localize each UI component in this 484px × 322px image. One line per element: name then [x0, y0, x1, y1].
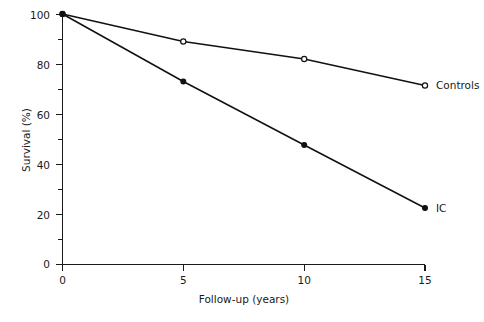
y-tick-label-0: 0: [43, 258, 50, 270]
x-tick-label-10: 10: [298, 274, 311, 286]
y-tick-label-20: 20: [37, 209, 50, 221]
y-tick-label-100: 100: [30, 9, 50, 21]
x-tick-label-5: 5: [180, 274, 187, 286]
series-controls: [60, 11, 428, 88]
series-label-controls: Controls: [436, 79, 479, 91]
data-point-controls-2: [302, 56, 307, 61]
data-point-controls-1: [181, 39, 186, 44]
y-tick-label-60: 60: [37, 109, 50, 121]
y-axis-minor-ticks: [58, 40, 63, 240]
series-label-ic: IC: [436, 202, 446, 214]
x-tick-label-15: 15: [418, 274, 431, 286]
series-ic: [60, 12, 427, 211]
x-axis-title: Follow-up (years): [199, 293, 289, 305]
data-point-controls-3: [422, 83, 427, 88]
survival-curve-chart: 0 20 40 60 80 100 0 5 10 15 Follow-up (y…: [0, 0, 484, 322]
x-tick-label-0: 0: [59, 274, 66, 286]
y-tick-label-40: 40: [37, 159, 50, 171]
data-point-ic-1: [181, 79, 186, 84]
y-axis-title: Survival (%): [20, 108, 32, 172]
x-axis-major-ticks: [63, 265, 426, 272]
y-tick-label-80: 80: [37, 59, 50, 71]
data-point-ic-0: [60, 12, 65, 17]
data-point-ic-2: [302, 143, 307, 148]
chart-canvas: 0 20 40 60 80 100 0 5 10 15 Follow-up (y…: [0, 0, 484, 322]
data-point-ic-3: [423, 206, 428, 211]
